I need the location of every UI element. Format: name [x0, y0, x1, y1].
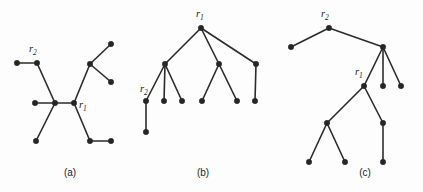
subscript: 1: [359, 71, 363, 80]
graph-node-b-child-left: [162, 61, 167, 66]
edge-b-child-mid-to-b-leaf-4: [202, 64, 219, 101]
graph-node-c-mid-left: [324, 120, 329, 125]
panel-b-label-r1: r1: [196, 8, 204, 22]
graph-node-a-leaf-left-mid: [32, 100, 37, 105]
panel-b-nodes: [143, 25, 258, 134]
panel-a-caption: (a): [64, 167, 76, 178]
tree-figures-svg: r2r1(a)r1r2(b)r2r1(c): [0, 0, 423, 192]
graph-node-b-leaf-5: [234, 98, 239, 103]
panel-c-nodes: [288, 25, 403, 164]
edge-b-r1-to-b-child-left: [165, 28, 201, 64]
edge-a-r1-to-a-branch-upper: [74, 64, 90, 103]
graph-node-c-right-mid: [380, 120, 385, 125]
graph-node-c-r1: [361, 83, 366, 88]
graph-node-c-leaf-bot-3: [380, 159, 385, 164]
edge-a-branch-upper-to-a-leaf-top-right: [90, 44, 111, 64]
graph-node-c-hub-leaf-1: [380, 83, 385, 88]
subscript: 1: [83, 104, 87, 113]
graph-node-b-child-right: [253, 61, 258, 66]
graph-node-a-center: [52, 100, 57, 105]
graph-node-a-branch-upper: [87, 61, 92, 66]
edge-b-child-left-to-b-r2: [146, 64, 165, 101]
panel-c-label-r1: r1: [355, 66, 363, 80]
edge-c-r1-to-c-right-mid: [364, 86, 383, 123]
edge-c-mid-left-to-c-leaf-bot-1: [309, 123, 327, 162]
edge-b-child-mid-to-b-leaf-5: [219, 64, 237, 101]
graph-node-b-r2: [143, 98, 148, 103]
graph-node-b-r1: [198, 25, 203, 30]
figure-container: r2r1(a)r1r2(b)r2r1(c): [0, 0, 423, 192]
graph-node-b-leaf-6: [252, 98, 257, 103]
graph-node-a-leaf-mid-right: [108, 79, 113, 84]
edge-c-r2-to-c-hub: [329, 28, 383, 47]
panel-c-label-r2: r2: [321, 8, 329, 22]
graph-node-c-r2: [326, 25, 331, 30]
graph-node-c-hub: [380, 44, 385, 49]
subscript: 2: [325, 13, 329, 22]
graph-node-a-leaf-bottom-right: [108, 138, 113, 143]
subscript: 2: [144, 88, 148, 97]
graph-node-c-leaf-far-left: [288, 44, 293, 49]
graph-node-b-child-mid: [216, 61, 221, 66]
subscript: 1: [200, 13, 204, 22]
graph-node-c-leaf-bot-2: [342, 159, 347, 164]
graph-node-b-leaf-2: [161, 98, 166, 103]
graph-node-a-leaf-bottom-mid: [87, 138, 92, 143]
graph-node-b-r2-child: [143, 129, 148, 134]
edge-c-hub-to-c-r1: [364, 47, 383, 86]
graph-node-a-r1: [71, 100, 76, 105]
edge-c-leaf-far-left-to-c-r2: [291, 28, 329, 47]
edge-b-child-left-to-b-leaf-3: [165, 64, 182, 101]
panel-c-caption: (c): [359, 167, 371, 178]
graph-node-c-leaf-bot-1: [306, 159, 311, 164]
panel-b: r1r2(b): [140, 8, 259, 178]
edge-c-mid-left-to-c-leaf-bot-2: [327, 123, 345, 162]
graph-node-a-leaf-left-upper: [14, 60, 19, 65]
edge-b-child-left-to-b-leaf-2: [164, 64, 165, 101]
graph-node-a-r2: [34, 60, 39, 65]
panel-b-edges: [146, 28, 256, 132]
subscript: 2: [33, 48, 37, 57]
panel-a-label-r1: r1: [79, 99, 87, 113]
edge-a-r2-to-a-center: [37, 63, 55, 103]
graph-node-b-leaf-4: [199, 98, 204, 103]
edge-a-center-to-a-leaf-lower-left: [36, 103, 55, 141]
edge-c-hub-to-c-hub-leaf-2: [383, 47, 401, 86]
edge-b-child-right-to-b-leaf-6: [255, 64, 256, 101]
graph-node-c-hub-leaf-2: [398, 83, 403, 88]
panel-b-caption: (b): [197, 167, 209, 178]
edge-a-branch-upper-to-a-leaf-mid-right: [90, 64, 111, 82]
panel-a-edges: [17, 44, 111, 141]
graph-node-a-leaf-top-right: [108, 41, 113, 46]
panel-a: r2r1(a): [14, 41, 113, 178]
panel-b-label-r2: r2: [140, 83, 148, 97]
panel-a-label-r2: r2: [29, 43, 37, 57]
graph-node-a-leaf-lower-left: [33, 138, 38, 143]
panel-c: r2r1(c): [288, 8, 403, 178]
panels-group: r2r1(a)r1r2(b)r2r1(c): [14, 8, 403, 178]
graph-node-b-leaf-3: [179, 98, 184, 103]
edge-c-r1-to-c-mid-left: [327, 86, 364, 123]
